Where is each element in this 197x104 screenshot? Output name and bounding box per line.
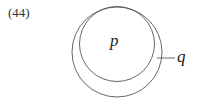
venn-diagram: p q — [0, 0, 197, 104]
outer-circle-q — [72, 7, 162, 97]
outer-label-q: q — [177, 47, 186, 66]
inner-label-p: p — [109, 31, 119, 50]
